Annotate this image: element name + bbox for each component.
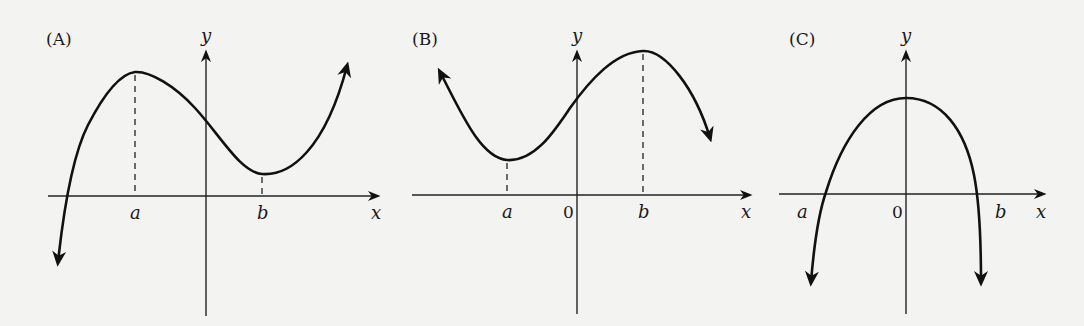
panel-a-y-label: y — [200, 25, 212, 46]
panel-b-curve — [440, 51, 710, 160]
panel-a-curve — [58, 66, 347, 262]
panel-b: (B) a 0 b x y — [412, 25, 751, 314]
panel-b-origin-label: 0 — [563, 202, 574, 222]
panel-b-tick-b: b — [638, 201, 650, 222]
panel-a-tick-a: a — [130, 202, 141, 223]
panel-c-label: (C) — [789, 29, 815, 49]
panel-c-y-label: y — [900, 25, 912, 46]
panel-b-x-label: x — [741, 201, 751, 222]
panel-c-tick-b: b — [995, 201, 1007, 222]
panel-a-tick-b: b — [257, 202, 269, 223]
panel-b-y-label: y — [571, 25, 583, 46]
panel-b-label: (B) — [412, 29, 438, 49]
panel-c-origin-label: 0 — [892, 202, 903, 222]
panel-c-curve — [811, 98, 981, 282]
figure-stage: (A) a b x y (B) a 0 b x — [0, 0, 1084, 326]
panel-a-x-label: x — [371, 202, 381, 223]
graphs-figure: (A) a b x y (B) a 0 b x — [0, 0, 1084, 326]
panel-c-tick-a: a — [797, 201, 808, 222]
panel-a: (A) a b x y — [46, 25, 381, 316]
panel-b-tick-a: a — [502, 201, 513, 222]
panel-c-x-label: x — [1036, 201, 1046, 222]
panel-a-label: (A) — [46, 29, 72, 49]
panel-c: (C) a 0 b x y — [779, 25, 1046, 314]
